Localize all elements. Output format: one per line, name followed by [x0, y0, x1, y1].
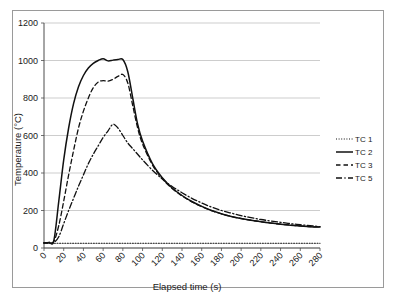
y-tick-label-200: 200 [23, 206, 38, 216]
x-axis-title: Elapsed time (s) [153, 281, 222, 292]
series-line-tc-3 [44, 74, 320, 243]
x-tick-label-40: 40 [74, 250, 88, 264]
chart-figure: 020040060080010001200 020406080100120140… [0, 0, 400, 304]
x-tick-label-240: 240 [267, 250, 285, 268]
x-tick-label-20: 20 [54, 250, 68, 264]
x-tick-label-60: 60 [93, 250, 107, 264]
series-line-tc-2 [44, 59, 320, 244]
gridlines-group [44, 23, 320, 248]
y-tick-label-0: 0 [33, 243, 38, 253]
series-line-tc-5 [44, 124, 320, 243]
x-tick-label-220: 220 [248, 250, 266, 268]
x-tick-label-100: 100 [129, 250, 147, 268]
legend-label-tc-5: TC 5 [355, 174, 373, 183]
x-tick-label-200: 200 [228, 250, 246, 268]
x-tick-label-80: 80 [113, 250, 127, 264]
data-series-group [44, 59, 320, 244]
x-tick-label-180: 180 [208, 250, 226, 268]
x-tick-label-0: 0 [38, 250, 49, 261]
x-tick-label-120: 120 [149, 250, 167, 268]
x-tick-label-280: 280 [307, 250, 325, 268]
x-tick-label-160: 160 [188, 250, 206, 268]
x-tick-label-260: 260 [287, 250, 305, 268]
y-tick-label-400: 400 [23, 168, 38, 178]
legend-label-tc-1: TC 1 [355, 135, 373, 144]
y-tick-label-1000: 1000 [18, 56, 38, 66]
legend-label-tc-3: TC 3 [355, 161, 373, 170]
legend-label-tc-2: TC 2 [355, 148, 373, 157]
y-tick-label-600: 600 [23, 131, 38, 141]
chart-legend: TC 1TC 2TC 3TC 5 [336, 135, 373, 183]
y-axis-title: Temperature (°C) [12, 113, 23, 186]
y-tick-label-1200: 1200 [18, 18, 38, 28]
x-axis-tick-labels: 020406080100120140160180200220240260280 [38, 250, 325, 268]
axes-group [41, 23, 320, 251]
x-tick-label-140: 140 [169, 250, 187, 268]
temperature-line-chart: 020040060080010001200 020406080100120140… [0, 0, 400, 304]
y-tick-label-800: 800 [23, 93, 38, 103]
